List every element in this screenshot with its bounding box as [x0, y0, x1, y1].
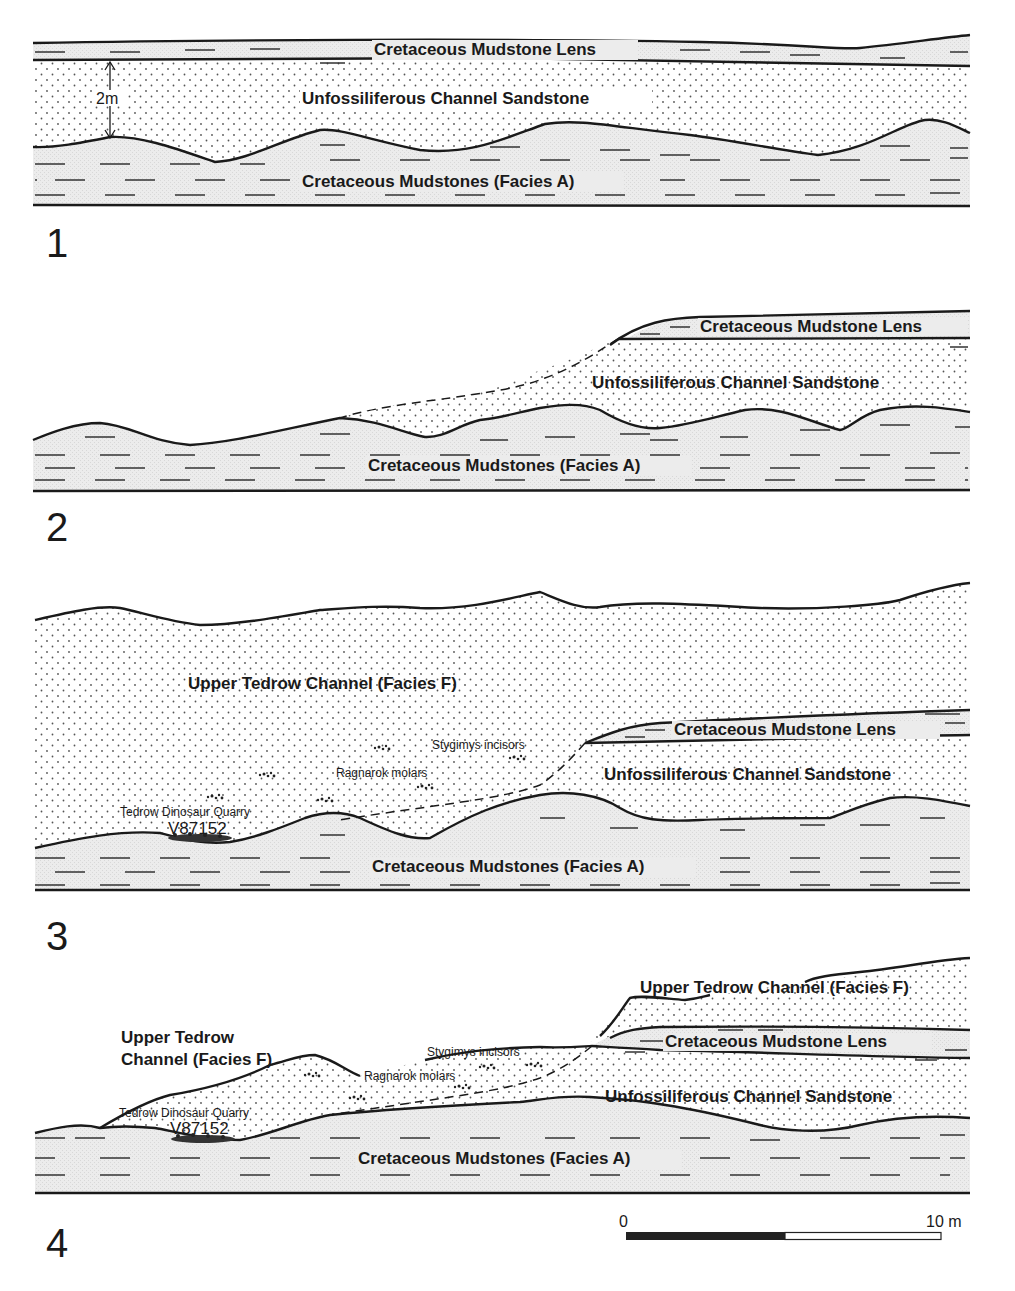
label-ragnarok-molars: Ragnarok molars: [364, 1069, 455, 1083]
panel-1-base-line: [33, 205, 970, 206]
scale-bar-white-segment: [785, 1233, 941, 1240]
label-mudstones-facies-a: Cretaceous Mudstones (Facies A): [302, 172, 574, 191]
label-mudstone-lens: Cretaceous Mudstone Lens: [374, 40, 596, 59]
scale-bar-end-label: 10 m: [926, 1213, 962, 1230]
label-channel-sandstone: Unfossiliferous Channel Sandstone: [604, 765, 891, 784]
panel-1: 2m Cretaceous Mudstone Lens Unfossilifer…: [33, 35, 970, 265]
lens-base-contact: [618, 338, 970, 339]
panel-number-2: 2: [46, 505, 68, 549]
panel-2: Cretaceous Mudstone Lens Unfossiliferous…: [33, 311, 970, 549]
label-ragnarok-molars: Ragnarok molars: [336, 766, 427, 780]
label-mudstones-facies-a: Cretaceous Mudstones (Facies A): [372, 857, 644, 876]
panel-number-1: 1: [46, 221, 68, 265]
panel-3: Upper Tedrow Channel (Facies F) Cretaceo…: [35, 583, 970, 958]
scale-bar: 0 10 m: [619, 1213, 962, 1240]
thickness-label: 2m: [96, 90, 118, 107]
panel-4: Upper Tedrow Channel (Facies F) Upper Te…: [35, 958, 970, 1265]
label-channel-sandstone: Unfossiliferous Channel Sandstone: [592, 373, 879, 392]
panel-number-3: 3: [46, 914, 68, 958]
label-mudstones-facies-a: Cretaceous Mudstones (Facies A): [368, 456, 640, 475]
label-stygimys-incisors: Stygimys incisors: [427, 1045, 520, 1059]
stratigraphic-cross-section-figure: 2m Cretaceous Mudstone Lens Unfossilifer…: [0, 0, 1015, 1291]
label-upper-tedrow-channel: Upper Tedrow Channel (Facies F): [188, 674, 457, 693]
label-tedrow-dinosaur-quarry: Tedrow Dinosaur Quarry: [120, 805, 250, 819]
label-upper-tedrow-channel-left-line1: Upper Tedrow: [121, 1028, 235, 1047]
label-locality-v87152: V87152: [170, 1119, 229, 1138]
label-tedrow-dinosaur-quarry: Tedrow Dinosaur Quarry: [119, 1106, 249, 1120]
label-channel-sandstone: Unfossiliferous Channel Sandstone: [605, 1087, 892, 1106]
label-mudstone-lens: Cretaceous Mudstone Lens: [665, 1032, 887, 1051]
scale-bar-start-label: 0: [619, 1213, 628, 1230]
label-mudstone-lens: Cretaceous Mudstone Lens: [700, 317, 922, 336]
label-upper-tedrow-channel-right: Upper Tedrow Channel (Facies F): [640, 978, 909, 997]
label-locality-v87152: V87152: [168, 819, 227, 838]
label-stygimys-incisors: Stygimys incisors: [432, 738, 525, 752]
panel-number-4: 4: [46, 1221, 68, 1265]
scale-bar-black-segment: [626, 1232, 785, 1240]
label-mudstones-facies-a: Cretaceous Mudstones (Facies A): [358, 1149, 630, 1168]
panel-2-base-line: [33, 490, 970, 491]
label-upper-tedrow-channel-left-line2: Channel (Facies F): [121, 1050, 272, 1069]
label-mudstone-lens: Cretaceous Mudstone Lens: [674, 720, 896, 739]
label-channel-sandstone: Unfossiliferous Channel Sandstone: [302, 89, 589, 108]
